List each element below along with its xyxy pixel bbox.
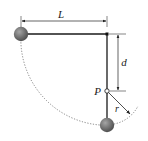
peg-point bbox=[105, 89, 109, 93]
r-radius-arrow bbox=[108, 92, 130, 114]
pivot-point bbox=[106, 33, 109, 36]
bottom-ball bbox=[100, 118, 114, 132]
P-label: P bbox=[93, 85, 101, 97]
pendulum-diagram: L d r P bbox=[0, 0, 148, 141]
swing-path-arc bbox=[21, 34, 100, 125]
d-label: d bbox=[121, 56, 127, 68]
r-label: r bbox=[115, 103, 119, 114]
L-label: L bbox=[57, 8, 64, 20]
left-ball bbox=[14, 27, 28, 41]
